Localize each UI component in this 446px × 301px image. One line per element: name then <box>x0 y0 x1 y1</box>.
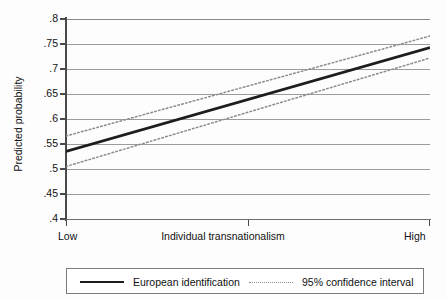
chart-page: Predicted probability .8.75.7.65.6.55.5.… <box>0 0 446 301</box>
x-axis-tick-low <box>66 220 67 226</box>
series-lines <box>66 19 430 219</box>
y-axis-tick-label: .4 <box>24 213 58 224</box>
dotted-line-icon <box>249 282 293 283</box>
legend-label-european-identification: European identification <box>133 276 240 288</box>
y-axis-tick-label: .7 <box>24 63 58 74</box>
x-axis-tick-mid <box>248 220 249 226</box>
y-axis-tick-label: .75 <box>24 38 58 49</box>
y-axis-tick-label: .6 <box>24 113 58 124</box>
y-axis-tick-label: .45 <box>24 188 58 199</box>
y-axis-tick-label: .55 <box>24 138 58 149</box>
legend: European identification 95% confidence i… <box>66 268 424 294</box>
plot-area <box>66 19 430 219</box>
y-axis-tick-label: .5 <box>24 163 58 174</box>
legend-label-confidence-interval: 95% confidence interval <box>302 276 414 288</box>
solid-line-icon <box>80 281 124 284</box>
y-axis-labels: .8.75.7.65.6.55.5.45.4 <box>20 0 58 301</box>
legend-item-confidence-interval: 95% confidence interval <box>249 269 414 295</box>
y-axis-tick-label: .8 <box>24 13 58 24</box>
y-axis-tick-label: .65 <box>24 88 58 99</box>
legend-item-european-identification: European identification <box>80 269 240 295</box>
x-axis-title: Individual transnationalism <box>0 230 446 242</box>
series-line-confidence-upper <box>66 36 430 136</box>
series-line-confidence-lower <box>66 58 430 167</box>
x-axis-label-high: High <box>404 230 426 242</box>
x-axis-tick-high <box>429 220 430 226</box>
series-line-european-identification <box>66 48 430 152</box>
